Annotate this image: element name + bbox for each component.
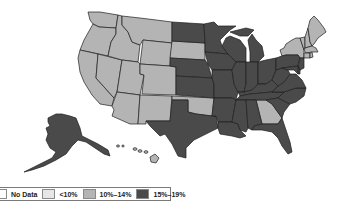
legend-swatch-lt10 (42, 189, 55, 199)
map-legend: No Data <10% 10%–14% 15%–19% (0, 187, 171, 201)
state-az (112, 92, 140, 124)
state-me (308, 16, 326, 46)
legend-swatch-10-14 (83, 189, 96, 199)
legend-swatch-no-data (0, 189, 7, 199)
state-hi-niihau (122, 145, 124, 147)
legend-label: 10%–14% (100, 191, 132, 198)
state-ri (310, 52, 313, 58)
state-wy (140, 40, 172, 66)
state-nd (172, 22, 205, 43)
state-mi (248, 34, 264, 62)
legend-label: 15%–19% (153, 191, 185, 198)
legend-label: No Data (11, 191, 37, 198)
state-sd (170, 41, 205, 60)
state-hi (150, 154, 159, 163)
us-choropleth-map (0, 0, 338, 202)
legend-item-lt10: <10% (42, 189, 77, 199)
state-hi-maui (138, 150, 142, 153)
legend-item-10-14: 10%–14% (83, 189, 132, 199)
state-hi-kauai (117, 145, 120, 147)
state-nm (138, 95, 172, 124)
state-ak (24, 114, 110, 172)
state-hi-oahu (133, 148, 137, 151)
legend-label: <10% (59, 191, 77, 198)
state-ct (304, 53, 310, 58)
state-ne (170, 58, 212, 78)
state-ks (176, 76, 214, 98)
legend-item-no-data: No Data (0, 189, 37, 199)
state-co (140, 64, 176, 95)
legend-item-15-19: 15%–19% (136, 189, 185, 199)
legend-swatch-15-19 (136, 189, 149, 199)
state-mi-up (230, 28, 254, 36)
state-hi-maui2 (144, 151, 148, 154)
